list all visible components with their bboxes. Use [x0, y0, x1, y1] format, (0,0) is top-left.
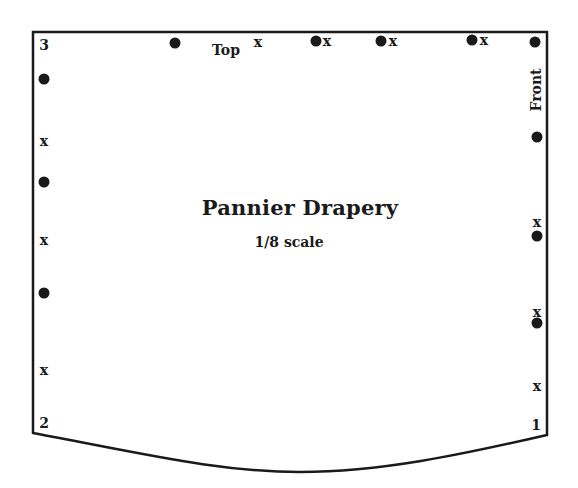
x-mark-icon: x	[254, 35, 262, 49]
placement-dot-icon	[467, 35, 478, 46]
corner-label-3: 3	[39, 38, 49, 52]
x-mark-icon: x	[533, 379, 541, 393]
x-mark-icon: x	[40, 134, 48, 148]
x-mark-icon: x	[533, 305, 541, 319]
placement-dot-icon	[39, 177, 50, 188]
pattern-title: Pannier Drapery	[202, 197, 398, 218]
placement-dot-icon	[532, 132, 543, 143]
x-mark-icon: x	[480, 33, 488, 47]
x-mark-icon: x	[40, 363, 48, 377]
scale-label: 1/8 scale	[254, 235, 323, 249]
placement-dot-icon	[530, 37, 541, 48]
placement-dot-icon	[311, 36, 322, 47]
placement-dot-icon	[39, 288, 50, 299]
pattern-outline-path	[33, 32, 547, 472]
x-mark-icon: x	[323, 34, 331, 48]
x-mark-icon: x	[533, 215, 541, 229]
top-edge-label: Top	[212, 43, 240, 57]
x-mark-icon: x	[40, 233, 48, 247]
placement-dot-icon	[532, 231, 543, 242]
corner-label-2: 2	[39, 416, 49, 430]
corner-label-1: 1	[531, 418, 541, 432]
placement-dot-icon	[39, 74, 50, 85]
x-mark-icon: x	[389, 34, 397, 48]
placement-dot-icon	[170, 38, 181, 49]
placement-dot-icon	[376, 36, 387, 47]
front-edge-label: Front	[529, 68, 543, 111]
